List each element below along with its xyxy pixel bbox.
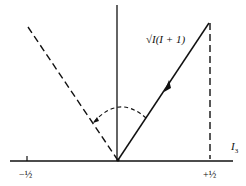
isospin-vector-diagram: √I(I + 1) I3 −½ +½ — [0, 0, 246, 186]
cone-line-left — [28, 27, 117, 159]
tick-left-label: −½ — [19, 169, 33, 180]
arc-arrow-icon — [93, 117, 99, 123]
tick-right-label: +½ — [203, 169, 217, 180]
precession-arc — [94, 107, 146, 122]
origin-dot — [116, 158, 119, 161]
axis-label: I3 — [230, 140, 239, 155]
vector-label: √I(I + 1) — [146, 33, 185, 46]
